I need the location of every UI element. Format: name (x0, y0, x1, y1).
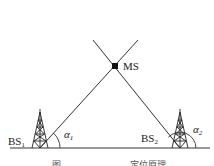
angle-arc-1 (54, 133, 61, 148)
caption-suffix: 定位原理 (130, 159, 166, 166)
bs2-label: BS2 (141, 132, 158, 146)
bs1-label: BS1 (8, 135, 25, 149)
caption-prefix: 图 (52, 160, 61, 166)
alpha2-label: α2 (193, 123, 203, 137)
bearing-line-bs1 (40, 40, 138, 148)
ms-node (112, 63, 118, 69)
aoa-diagram: MS BS1 BS2 α1 α2 图 定位原理 (0, 0, 214, 166)
tower-icon-bs1 (32, 109, 48, 148)
ms-label: MS (123, 60, 139, 72)
tower-icon-bs2 (172, 109, 188, 148)
alpha1-label: α1 (64, 128, 73, 142)
bearing-line-bs2 (93, 40, 180, 148)
